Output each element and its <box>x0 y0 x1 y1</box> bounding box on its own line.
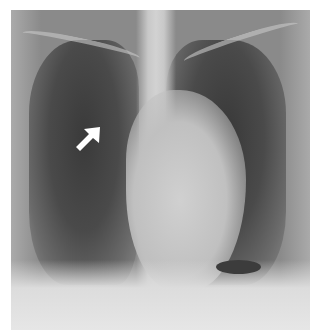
right-lung-field <box>29 40 139 285</box>
chest-xray-image <box>11 10 310 330</box>
gastric-bubble <box>216 260 261 274</box>
upper-abdomen <box>11 260 310 330</box>
arrow-icon <box>72 125 102 155</box>
